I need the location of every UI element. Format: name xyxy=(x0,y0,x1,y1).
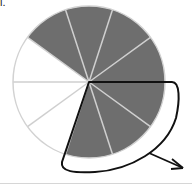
fraction-circle-diagram xyxy=(0,0,192,187)
arrow-line xyxy=(149,153,183,168)
bottom-divider xyxy=(0,183,192,184)
